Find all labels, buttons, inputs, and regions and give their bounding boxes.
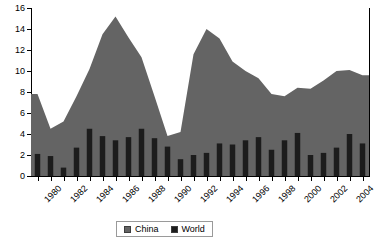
y-tick-label: 2	[20, 151, 25, 160]
bar-series-world	[308, 155, 313, 176]
bar-series-world	[61, 168, 66, 176]
x-tick-label: 1982	[68, 184, 89, 205]
bar-series-world	[126, 137, 131, 176]
x-tick	[220, 177, 221, 181]
x-tick	[272, 177, 273, 181]
plot-right-border	[369, 8, 370, 177]
bar-series-world	[178, 159, 183, 176]
legend-item-china: China	[124, 225, 159, 234]
bar-series-world	[256, 137, 261, 176]
x-tick	[233, 177, 234, 181]
bar-series-world	[321, 153, 326, 176]
x-tick	[90, 177, 91, 181]
legend-swatch-world	[171, 226, 178, 233]
x-tick	[38, 177, 39, 181]
x-tick	[259, 177, 260, 181]
y-tick-label: 6	[20, 109, 25, 118]
bar-series-world	[152, 138, 157, 176]
chart-legend: China World	[116, 221, 213, 237]
bar-series-world	[243, 140, 248, 176]
bar-series-world	[347, 134, 352, 176]
x-tick	[363, 177, 364, 181]
x-tick	[337, 177, 338, 181]
bar-series-world	[35, 154, 40, 176]
x-tick-label: 2002	[328, 184, 349, 205]
plot-area	[31, 8, 369, 176]
x-tick	[51, 177, 52, 181]
x-tick-label: 1990	[172, 184, 193, 205]
x-tick-label: 1996	[250, 184, 271, 205]
x-tick	[207, 177, 208, 181]
bar-series-world	[113, 140, 118, 176]
y-tick	[27, 176, 32, 177]
x-tick	[77, 177, 78, 181]
x-axis-line	[31, 176, 370, 177]
bar-series-world	[139, 129, 144, 176]
y-axis-labels: 0246810121416	[0, 0, 25, 185]
x-tick-label: 1986	[120, 184, 141, 205]
x-tick	[142, 177, 143, 181]
x-tick-label: 1988	[146, 184, 167, 205]
bar-series-world	[295, 133, 300, 176]
x-tick	[324, 177, 325, 181]
bar-series-world	[191, 155, 196, 176]
y-tick-label: 8	[20, 88, 25, 97]
y-tick-label: 16	[15, 4, 25, 13]
bar-series-world	[282, 140, 287, 176]
x-tick-label: 2004	[354, 184, 375, 205]
x-tick	[116, 177, 117, 181]
legend-swatch-china	[124, 226, 131, 233]
x-tick-label: 2000	[302, 184, 323, 205]
bar-series-world	[74, 148, 79, 176]
x-tick	[168, 177, 169, 181]
x-tick	[181, 177, 182, 181]
x-tick	[311, 177, 312, 181]
x-tick	[350, 177, 351, 181]
x-tick	[129, 177, 130, 181]
x-tick	[103, 177, 104, 181]
bar-series-world	[48, 156, 53, 176]
x-tick	[194, 177, 195, 181]
y-tick-label: 14	[15, 25, 25, 34]
bar-series-world	[217, 143, 222, 176]
x-tick	[285, 177, 286, 181]
bar-series-world	[204, 153, 209, 176]
chart-svg	[31, 8, 369, 176]
y-tick-label: 12	[15, 46, 25, 55]
x-tick-label: 1984	[94, 184, 115, 205]
bar-series-world	[230, 145, 235, 177]
bar-series-world	[334, 148, 339, 176]
legend-label-china: China	[135, 225, 159, 234]
x-tick-label: 1992	[198, 184, 219, 205]
bar-series-world	[165, 147, 170, 176]
bar-series-world	[360, 143, 365, 176]
legend-label-world: World	[182, 225, 205, 234]
y-tick-label: 10	[15, 67, 25, 76]
bar-series-world	[100, 136, 105, 176]
y-tick-label: 0	[20, 172, 25, 181]
chart-container: 0246810121416 19801982198419861988199019…	[0, 0, 382, 243]
x-tick	[246, 177, 247, 181]
plot-clip	[31, 8, 369, 176]
legend-item-world: World	[171, 225, 205, 234]
x-tick	[298, 177, 299, 181]
x-tick-label: 1980	[42, 184, 63, 205]
x-tick-label: 1994	[224, 184, 245, 205]
bar-series-world	[87, 129, 92, 176]
area-series-china	[31, 16, 369, 176]
x-tick	[64, 177, 65, 181]
x-tick-label: 1998	[276, 184, 297, 205]
y-tick-label: 4	[20, 130, 25, 139]
x-tick	[155, 177, 156, 181]
bar-series-world	[269, 150, 274, 176]
